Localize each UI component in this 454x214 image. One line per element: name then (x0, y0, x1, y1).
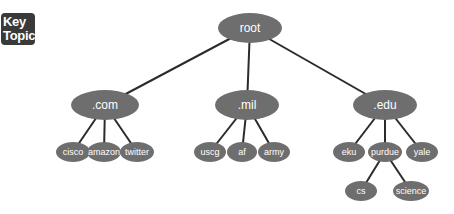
node-domain-af: af (227, 142, 257, 162)
node-tld-mil: .mil (215, 90, 279, 120)
node-domain-yale: yale (406, 142, 438, 162)
node-label: .com (92, 98, 118, 112)
node-subdomain-science: science (393, 181, 429, 201)
node-label: .mil (238, 98, 257, 112)
node-domain-eku: eku (333, 142, 365, 162)
node-label: eku (342, 147, 357, 157)
node-domain-army: army (258, 142, 290, 162)
node-label: .edu (373, 98, 396, 112)
node-label: cisco (63, 147, 84, 157)
node-label: army (264, 147, 284, 157)
node-domain-amazon: amazon (87, 142, 121, 162)
node-domain-uscg: uscg (194, 142, 226, 162)
node-label: af (238, 147, 246, 157)
node-label: amazon (88, 147, 120, 157)
node-domain-cisco: cisco (56, 142, 90, 162)
node-domain-purdue: purdue (368, 142, 402, 162)
node-label: science (396, 186, 427, 196)
node-tld-edu: .edu (353, 90, 417, 120)
node-tld-com: .com (71, 90, 139, 120)
node-label: yale (414, 147, 431, 157)
node-domain-twitter: twitter (120, 142, 154, 162)
node-subdomain-cs: cs (345, 181, 377, 201)
dns-hierarchy-diagram: root.com.mil.educiscoamazontwitteruscgaf… (0, 0, 454, 214)
node-label: root (240, 21, 261, 35)
tree-nodes: root.com.mil.educiscoamazontwitteruscgaf… (56, 13, 438, 201)
node-label: cs (357, 186, 367, 196)
node-label: uscg (200, 147, 219, 157)
node-root: root (218, 13, 282, 43)
node-label: twitter (125, 147, 149, 157)
node-label: purdue (371, 147, 399, 157)
